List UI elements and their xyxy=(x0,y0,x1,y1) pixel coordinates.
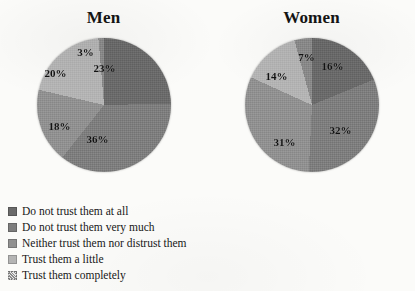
legend-item[interactable]: Do not trust them very much xyxy=(8,219,258,235)
pie-chart-men: 23%36%18%20%3% xyxy=(37,38,171,172)
legend-swatch-icon xyxy=(8,239,17,248)
panel-title-men: Men xyxy=(0,8,207,28)
slice-label: 20% xyxy=(45,67,67,79)
slice-label: 31% xyxy=(274,136,296,148)
legend-item-label: Neither trust them nor distrust them xyxy=(22,237,187,249)
slice-label: 36% xyxy=(87,133,109,145)
slice-label: 32% xyxy=(330,124,352,136)
legend-item[interactable]: Trust them a little xyxy=(8,251,258,267)
legend-item-label: Do not trust them at all xyxy=(22,205,128,217)
slice-label: 7% xyxy=(298,51,315,63)
legend-item-label: Trust them completely xyxy=(22,269,126,281)
legend: Do not trust them at allDo not trust the… xyxy=(8,203,258,283)
pie-panel-men: Men 23%36%18%20%3% xyxy=(0,0,207,196)
slice-label: 16% xyxy=(322,60,344,72)
slice-label: 18% xyxy=(49,120,71,132)
pie-panel-women: Women 16%32%31%14%7% xyxy=(208,0,415,196)
legend-swatch-icon xyxy=(8,223,17,232)
legend-swatch-icon xyxy=(8,255,17,264)
legend-item-label: Do not trust them very much xyxy=(22,221,155,233)
slice-label: 23% xyxy=(94,62,116,74)
legend-item[interactable]: Trust them completely xyxy=(8,267,258,283)
slice-label: 3% xyxy=(77,46,94,58)
legend-item[interactable]: Neither trust them nor distrust them xyxy=(8,235,258,251)
legend-item[interactable]: Do not trust them at all xyxy=(8,203,258,219)
charts-area: Men 23%36%18%20%3% Women 16%32%31%14%7% xyxy=(0,0,415,196)
slice-label: 14% xyxy=(266,70,288,82)
panel-title-women: Women xyxy=(208,8,415,28)
pie-men-slices xyxy=(37,38,171,172)
legend-item-label: Trust them a little xyxy=(22,253,104,265)
legend-swatch-icon xyxy=(8,271,17,280)
pie-chart-women: 16%32%31%14%7% xyxy=(245,38,379,172)
legend-swatch-icon xyxy=(8,207,17,216)
